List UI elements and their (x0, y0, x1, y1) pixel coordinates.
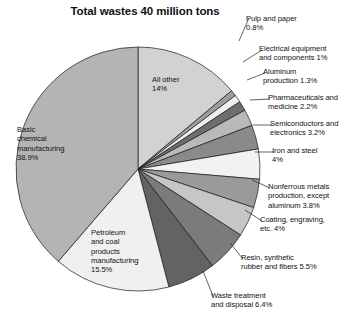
label-nonferrous-metals: Nonferrous metals production, except alu… (268, 182, 356, 210)
label-pharmaceuticals: Pharmaceuticals and medicine 2.2% (268, 93, 356, 112)
label-coating-engraving: Coating, engraving, etc. 4% (260, 215, 354, 234)
leader-line-pharmaceuticals (250, 99, 270, 100)
label-aluminum-production: Aluminum production 1.3% (263, 67, 355, 86)
label-all-other: All other 14% (152, 75, 222, 94)
label-waste-treatment: Waste treatment and disposal 6.4% (211, 291, 331, 310)
label-iron-and-steel: Iron and steel 4% (272, 146, 356, 165)
label-semiconductors: Semiconductors and electronics 3.2% (270, 119, 356, 138)
label-electrical-equipment: Electrical equipment and components 1% (259, 44, 355, 63)
pie-chart-figure: Total wastes 40 million tons Pulp and pa… (0, 0, 357, 326)
label-resin-rubber-fibers: Resin, synthetic rubber and fibers 5.5% (241, 253, 353, 272)
label-petroleum-coal: Petroleum and coal products manufacturin… (91, 228, 159, 274)
label-pulp-and-paper: Pulp and paper 0.8% (246, 14, 354, 33)
label-basic-chemical: Basic chemical manufacturing 38.9% (17, 125, 97, 162)
